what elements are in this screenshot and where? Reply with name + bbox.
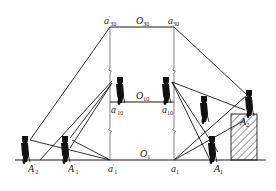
label-A2-prime: A′2	[27, 163, 38, 175]
label-O1: O1	[140, 148, 150, 160]
label-A1: A1	[213, 163, 223, 175]
label-a10: a10	[162, 104, 173, 116]
label-a1: a1	[171, 163, 179, 175]
label-a30-prime: a′30	[104, 15, 116, 27]
label-O30: O30	[136, 15, 149, 27]
label-a1-prime: a′1	[108, 163, 117, 175]
label-O10: O10	[136, 90, 149, 102]
label-a30: a30	[168, 15, 179, 27]
surveying-diagram: a′30 O30 a30 O10 a′10 a10 O1 a′1 a1 A′2 …	[0, 0, 276, 191]
surveyor-a10prime	[116, 77, 125, 105]
surveyor-mid-right	[200, 96, 209, 124]
label-A1-prime: A′1	[67, 163, 78, 175]
surveyor-a10	[162, 77, 171, 105]
vertical-axis-right	[173, 27, 176, 160]
vertical-axis-left	[109, 27, 112, 160]
label-a10-prime: a′10	[111, 104, 123, 116]
